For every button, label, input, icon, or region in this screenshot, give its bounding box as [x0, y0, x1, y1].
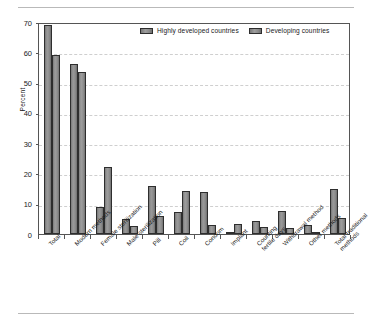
y-tick-label: 20: [10, 170, 32, 179]
y-tick-label: 0: [10, 231, 32, 240]
x-tick-mark: [90, 235, 91, 239]
bar-group: [91, 24, 117, 234]
bottom-divider-rule: [18, 313, 354, 314]
bar-group: [195, 24, 221, 234]
x-axis-label: Coil: [177, 234, 190, 247]
y-tick-label: 60: [10, 49, 32, 58]
x-tick-mark: [168, 235, 169, 239]
bar-group: [169, 24, 195, 234]
chart-figure: Percent 010203040506070 TotalModern meth…: [0, 0, 370, 330]
bar: [226, 232, 234, 234]
bar-group: [273, 24, 299, 234]
x-tick-mark: [246, 235, 247, 239]
y-tick-label: 40: [10, 109, 32, 118]
bar: [174, 212, 182, 234]
y-tick-label: 30: [10, 140, 32, 149]
legend-swatch-icon: [140, 28, 153, 34]
bar: [70, 64, 78, 234]
bar-group: [117, 24, 143, 234]
legend-label: Developing countries: [266, 27, 330, 34]
bar-group: [299, 24, 325, 234]
y-tick-label: 10: [10, 200, 32, 209]
bar: [52, 55, 60, 234]
chart-legend: Highly developed countries Developing co…: [140, 27, 329, 34]
x-tick-mark: [298, 235, 299, 239]
bar: [182, 191, 190, 234]
x-tick-mark: [116, 235, 117, 239]
bar-group: [325, 24, 351, 234]
x-tick-mark: [64, 235, 65, 239]
x-tick-mark: [38, 235, 39, 239]
y-tick-label: 70: [10, 19, 32, 28]
bar-group: [247, 24, 273, 234]
bar-group: [221, 24, 247, 234]
legend-item-highly-developed: Highly developed countries: [140, 27, 239, 34]
bar: [104, 167, 112, 234]
x-axis-label: Pill: [151, 236, 162, 247]
bar-group: [143, 24, 169, 234]
x-tick-mark: [220, 235, 221, 239]
x-tick-mark: [324, 235, 325, 239]
x-tick-mark: [142, 235, 143, 239]
legend-swatch-icon: [249, 28, 262, 34]
plot-area: [38, 23, 350, 235]
bars-layer: [39, 24, 349, 234]
bar: [200, 192, 208, 234]
legend-item-developing: Developing countries: [249, 27, 330, 34]
bar: [44, 25, 52, 234]
bar: [78, 72, 86, 234]
y-tick-label: 50: [10, 79, 32, 88]
bar: [252, 221, 260, 234]
bar-group: [65, 24, 91, 234]
x-tick-mark: [194, 235, 195, 239]
top-divider-rule: [18, 7, 354, 8]
legend-label: Highly developed countries: [157, 27, 239, 34]
bar-group: [39, 24, 65, 234]
